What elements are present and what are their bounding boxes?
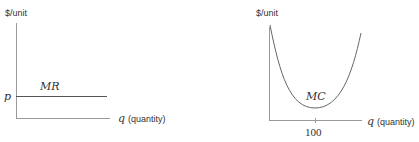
mr-label: MR [39, 80, 60, 93]
figure: $/unit p MR q (quantity) $/unit MC 100 q… [0, 0, 419, 142]
x-tick-label: 100 [305, 126, 322, 138]
x-axis-label: (quantity) [377, 117, 415, 127]
mc-label: MC [305, 90, 326, 103]
x-axis-var: q [118, 112, 125, 125]
mr-chart: $/unit p MR q (quantity) [4, 8, 166, 125]
mc-chart: $/unit MC 100 q (quantity) [256, 8, 415, 138]
x-axis-label: (quantity) [128, 114, 166, 124]
y-axis-label: $/unit [5, 8, 28, 18]
y-axis-label: $/unit [256, 8, 279, 18]
x-axis-var: q [367, 115, 374, 128]
price-label: p [4, 90, 11, 103]
